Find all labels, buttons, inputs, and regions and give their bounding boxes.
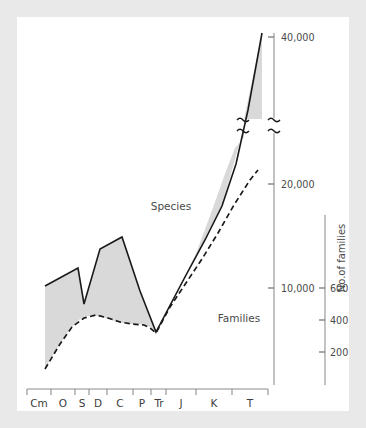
- families-axis-title: No.of families: [336, 224, 347, 293]
- species-tick-label-10000: 10,000: [281, 283, 315, 294]
- species-tick-label-20000: 20,000: [281, 179, 315, 190]
- x-label-s: S: [79, 397, 86, 409]
- families-series-label: Families: [218, 312, 260, 324]
- species-axis-break-icon: [268, 118, 280, 132]
- x-label-tr: Tr: [153, 397, 164, 409]
- species-series-label: Species: [151, 200, 191, 212]
- diversity-chart: 40,000 20,000 10,000 600 400 200 No.of f…: [0, 0, 366, 428]
- x-label-k: K: [211, 397, 219, 409]
- species-tick-label-40000: 40,000: [281, 32, 315, 43]
- families-axis: 600 400 200 No.of families: [319, 215, 348, 385]
- x-label-d: D: [94, 397, 102, 409]
- x-label-j: J: [178, 397, 182, 409]
- x-label-o: O: [59, 397, 67, 409]
- families-tick-label-400: 400: [330, 315, 348, 326]
- plot-axis-break: [237, 118, 249, 132]
- x-axis: Cm O S D C P Tr J K T: [27, 389, 268, 409]
- x-label-cm: Cm: [30, 397, 48, 409]
- x-label-p: P: [139, 397, 145, 409]
- x-label-c: C: [116, 397, 123, 409]
- species-families-band-lower: [45, 127, 244, 369]
- families-tick-label-200: 200: [330, 347, 348, 358]
- species-axis: 40,000 20,000 10,000: [268, 32, 315, 385]
- x-label-t: T: [246, 397, 254, 409]
